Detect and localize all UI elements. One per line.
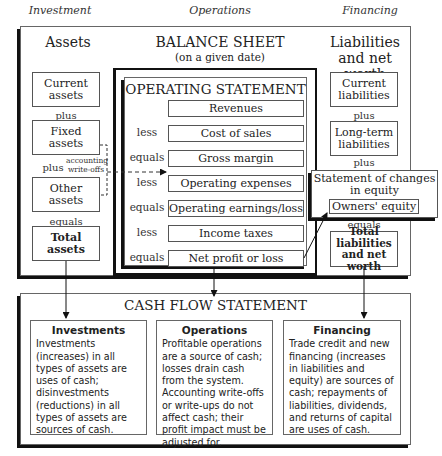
op-item-cost-of-sales: Cost of sales [168, 125, 304, 142]
accounting-write-offs-label: accounting write-offs [66, 157, 106, 174]
op-connector-2: equals [122, 151, 172, 163]
cash-flow-operations-box: Operations Profitable operations are a s… [156, 320, 273, 435]
assets-connector-plus-2: plus [38, 162, 68, 173]
op-connector-3: less [122, 176, 172, 188]
current-assets-box: Current assets [32, 72, 100, 107]
fixed-assets-box: Fixed assets [32, 120, 100, 155]
op-item-revenues: Revenues [168, 100, 304, 117]
op-item-operating-earnings: Operating earnings/loss [168, 200, 304, 217]
column-header-investment: Investment [20, 4, 100, 17]
cash-flow-investments-box: Investments Investments (increases) in a… [30, 320, 147, 435]
balance-sheet-title: BALANCE SHEET [140, 34, 300, 50]
total-assets-box: Total assets [32, 226, 100, 261]
cash-flow-financing-body: Trade credit and new financing (increase… [289, 338, 395, 436]
cash-flow-financing-title: Financing [289, 324, 395, 336]
cash-flow-operations-title: Operations [162, 324, 267, 336]
equity-statement-title: Statement of changes in equity [311, 173, 438, 197]
balance-sheet-subtitle: (on a given date) [140, 51, 300, 63]
liabilities-connector-plus-2: plus [330, 157, 398, 168]
cash-flow-investments-title: Investments [36, 324, 141, 336]
operating-statement-title: OPERATING STATEMENT [124, 81, 307, 97]
cash-flow-title: CASH FLOW STATEMENT [20, 297, 411, 313]
op-connector-5: less [122, 226, 172, 238]
cash-flow-investments-body: Investments (increases) in all types of … [36, 338, 141, 436]
op-item-net-profit: Net profit or loss [168, 250, 304, 267]
op-item-income-taxes: Income taxes [168, 225, 304, 242]
current-liabilities-box: Current liabilities [330, 72, 398, 107]
cash-flow-financing-box: Financing Trade credit and new financing… [283, 320, 401, 435]
assets-heading: Assets [20, 34, 116, 50]
long-term-liabilities-box: Long-term liabilities [330, 121, 398, 156]
op-connector-6: equals [122, 251, 172, 263]
op-connector-4: equals [122, 201, 172, 213]
other-assets-box: Other assets [32, 177, 100, 212]
liabilities-connector-plus-1: plus [330, 110, 398, 121]
op-item-operating-expenses: Operating expenses [168, 175, 304, 192]
op-connector-1: less [122, 126, 172, 138]
owners-equity-box: Owners' equity [329, 199, 419, 214]
column-header-financing: Financing [330, 4, 410, 17]
cash-flow-operations-body: Profitable operations are a source of ca… [162, 338, 267, 449]
column-header-operations: Operations [150, 4, 290, 17]
op-item-gross-margin: Gross margin [168, 150, 304, 167]
total-liabilities-box: Total liabilities and net worth [330, 231, 398, 267]
